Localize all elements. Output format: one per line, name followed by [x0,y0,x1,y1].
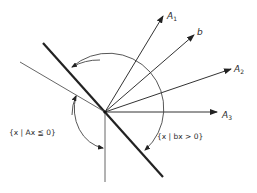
arc-bx-positive [72,53,164,150]
farkas-diagram: A1 b A2 A3 {x | Ax ≦ 0} {x | bx > 0} [0,0,257,193]
label-a3: A3 [221,110,232,121]
label-a1: A1 [166,11,177,22]
label-set-ax: {x | Ax ≦ 0} [9,128,56,137]
hyperplane-line [43,43,163,177]
label-a2: A2 [233,64,244,75]
origin-point [103,110,106,113]
cone-edge-upper [20,62,105,112]
vector-b-arrow [105,35,194,112]
vector-a1-arrow [105,16,163,112]
label-b: b [197,27,203,37]
label-set-bx: {x | bx > 0} [157,132,203,141]
vector-a2-arrow [105,69,231,112]
